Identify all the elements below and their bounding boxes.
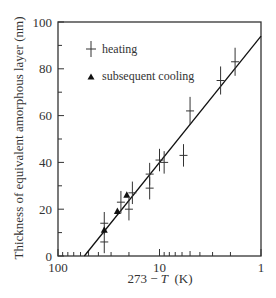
data-point-heating: [125, 198, 133, 220]
legend-cooling-marker-icon: [88, 74, 95, 80]
plot-frame: [58, 22, 261, 256]
legend-heating-label: heating: [102, 42, 137, 56]
data-point-heating: [146, 177, 154, 199]
y-tick-label: 20: [39, 202, 52, 217]
legend-cooling-label: subsequent cooling: [102, 69, 194, 83]
y-axis-title: Thickness of equivalent amorphous layer …: [11, 17, 26, 260]
y-tick-label: 40: [39, 155, 52, 170]
chart: 020406080100 100101 heating subsequent c…: [0, 0, 276, 298]
x-tick-label: 100: [48, 260, 68, 275]
y-tick-label: 80: [39, 61, 52, 76]
data-point-heating: [156, 149, 164, 171]
data-point-heating: [160, 151, 168, 173]
y-tick-label: 60: [39, 108, 52, 123]
y-axis: 020406080100: [33, 15, 65, 264]
data-point-heating: [180, 144, 188, 166]
x-tick-label: 1: [258, 260, 265, 275]
x-axis-title: 273 − T (K): [127, 271, 192, 286]
y-tick-label: 100: [33, 15, 53, 30]
legend-heating-marker-icon: [86, 41, 96, 57]
legend: heating subsequent cooling: [86, 41, 194, 83]
series-cooling: [101, 191, 131, 233]
data-point-cooling: [123, 191, 130, 198]
